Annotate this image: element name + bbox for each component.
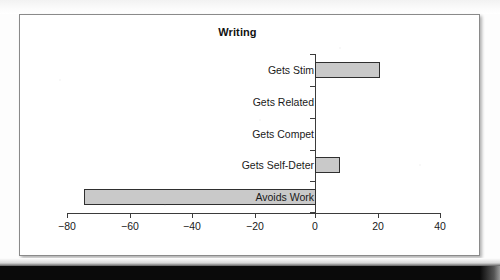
category-tick — [310, 86, 315, 87]
page-bottom-band-highlight — [480, 266, 500, 280]
category-label-avoids-work: Avoids Work — [255, 191, 314, 203]
page-bottom-dark-band — [0, 266, 500, 280]
x-axis-line — [67, 213, 440, 214]
plot-area: Gets Stim Gets Related Gets Compet Gets … — [20, 15, 479, 255]
x-axis-tick — [315, 213, 316, 218]
x-axis-tick-label: −40 — [183, 220, 201, 232]
x-axis-tick-label: −80 — [58, 220, 76, 232]
scan-haze-top — [0, 0, 500, 14]
x-axis-tick — [130, 213, 131, 218]
x-axis-tick-label: 20 — [372, 220, 384, 232]
x-axis-tick-label: −60 — [121, 220, 139, 232]
x-axis-tick-label: 0 — [312, 220, 318, 232]
x-axis-tick — [378, 213, 379, 218]
x-axis-tick — [67, 213, 68, 218]
category-tick — [310, 54, 315, 55]
category-tick — [310, 150, 315, 151]
x-axis-tick-label: 40 — [434, 220, 446, 232]
category-label-gets-related: Gets Related — [253, 96, 314, 108]
category-tick — [310, 181, 315, 182]
category-label-gets-self-deter: Gets Self-Deter — [242, 159, 314, 171]
bar-gets-self-deter[interactable] — [315, 157, 340, 173]
category-label-gets-compet: Gets Compet — [252, 128, 314, 140]
x-axis-tick — [440, 213, 441, 218]
x-axis-tick — [255, 213, 256, 218]
category-label-gets-stim: Gets Stim — [268, 64, 314, 76]
bar-gets-stim[interactable] — [315, 62, 380, 78]
x-axis-tick — [192, 213, 193, 218]
category-tick — [310, 118, 315, 119]
bar-chart: Writing Gets Stim Gets Related — [20, 15, 479, 255]
figure-frame: Writing Gets Stim Gets Related — [19, 14, 480, 256]
x-axis-tick-label: −20 — [246, 220, 264, 232]
scanned-page: Writing Gets Stim Gets Related — [0, 0, 500, 280]
